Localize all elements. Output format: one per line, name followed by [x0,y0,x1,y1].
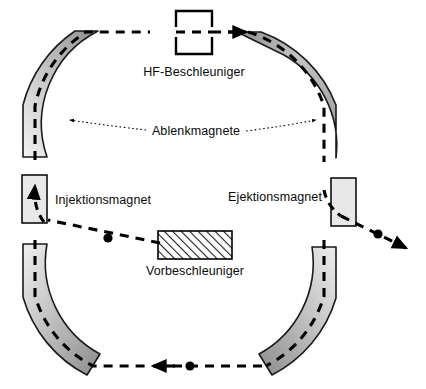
ejection-magnet [324,178,356,226]
rf-accelerator-label: HF-Beschleuniger [143,65,245,79]
particle-marker-extracted [373,229,382,238]
leader-line-left [70,120,146,130]
bending-magnets-label: Ablenkmagnete [152,124,240,138]
injection-magnet [22,175,47,223]
ejection-magnet-label: Ejektionsmagnet [228,190,322,204]
leader-line-right [246,120,316,131]
diagram-canvas: HF-Beschleuniger Ablenkmagnete Injektion… [0,0,426,389]
rf-accelerator [176,11,212,54]
preaccelerator-label: Vorbeschleuniger [146,264,244,278]
rf-accelerator-upper-half [176,11,212,27]
preaccelerator [158,231,232,259]
particle-marker-injected [103,233,112,242]
particle-marker-bottom [185,361,194,370]
bending-magnet-arc-bottom-right [259,247,336,375]
rf-accelerator-lower-half [176,37,212,54]
preaccelerator-box [158,231,232,259]
injection-magnet-box [22,175,47,223]
bending-magnet-arc-top-right [237,32,337,158]
synchrotron-diagram: HF-Beschleuniger Ablenkmagnete Injektion… [0,0,426,389]
injection-magnet-label: Injektionsmagnet [55,193,152,207]
